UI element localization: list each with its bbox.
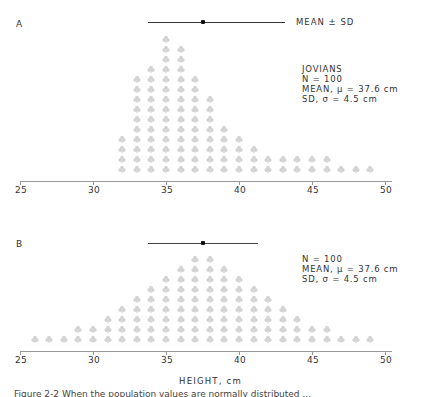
data-dot: [206, 315, 214, 323]
stats-line: SD, σ = 4.5 cm: [302, 94, 398, 104]
data-dot: [147, 105, 155, 113]
data-dot: [235, 285, 243, 293]
data-dot: [133, 335, 141, 343]
data-dot: [118, 325, 126, 333]
data-dot: [162, 45, 170, 53]
data-dot: [191, 85, 199, 93]
data-dot: [177, 65, 185, 73]
data-dot: [264, 325, 272, 333]
data-dot: [293, 165, 301, 173]
data-dot: [147, 125, 155, 133]
data-dot: [147, 305, 155, 313]
data-dot: [235, 335, 243, 343]
x-tick-label: 25: [15, 355, 27, 365]
data-dot: [191, 305, 199, 313]
data-dot: [191, 315, 199, 323]
data-dot: [337, 165, 345, 173]
data-dot: [279, 305, 287, 313]
data-dot: [235, 145, 243, 153]
data-dot: [308, 155, 316, 163]
data-dot: [162, 325, 170, 333]
data-dot: [220, 145, 228, 153]
data-dot: [191, 265, 199, 273]
data-dot: [162, 315, 170, 323]
x-tick-label: 45: [307, 185, 319, 195]
data-dot: [220, 135, 228, 143]
data-dot: [220, 295, 228, 303]
data-dot: [162, 65, 170, 73]
data-dot: [220, 155, 228, 163]
data-dot: [191, 145, 199, 153]
data-dot: [118, 315, 126, 323]
data-dot: [31, 335, 39, 343]
data-dot: [235, 295, 243, 303]
data-dot: [177, 335, 185, 343]
data-dot: [74, 335, 82, 343]
data-dot: [133, 95, 141, 103]
data-dot: [264, 165, 272, 173]
data-dot: [89, 325, 97, 333]
data-dot: [235, 325, 243, 333]
data-dot: [323, 155, 331, 163]
data-dot: [147, 295, 155, 303]
data-dot: [235, 155, 243, 163]
data-dot: [293, 315, 301, 323]
data-dot: [206, 275, 214, 283]
stats-line: JOVIANS: [302, 64, 398, 74]
data-dot: [206, 285, 214, 293]
data-dot: [147, 145, 155, 153]
data-dot: [162, 125, 170, 133]
data-dot: [220, 125, 228, 133]
data-dot: [177, 85, 185, 93]
data-dot: [177, 295, 185, 303]
data-dot: [235, 305, 243, 313]
data-dot: [235, 315, 243, 323]
data-dot: [235, 275, 243, 283]
data-dot: [191, 335, 199, 343]
data-dot: [177, 55, 185, 63]
mean-marker: [201, 20, 205, 24]
data-dot: [323, 325, 331, 333]
figure-caption: Figure 2-2 When the population values ar…: [14, 389, 414, 397]
x-tick-label: 40: [234, 185, 246, 195]
data-dot: [133, 165, 141, 173]
data-dot: [162, 135, 170, 143]
data-dot: [191, 155, 199, 163]
data-dot: [89, 335, 97, 343]
data-dot: [191, 275, 199, 283]
data-dot: [206, 165, 214, 173]
data-dot: [147, 325, 155, 333]
stats-line: MEAN, μ = 37.6 cm: [302, 264, 398, 274]
panel-letter: B: [16, 239, 23, 249]
data-dot: [162, 305, 170, 313]
data-dot: [279, 165, 287, 173]
data-dot: [162, 55, 170, 63]
x-axis: [20, 351, 392, 352]
data-dot: [250, 295, 258, 303]
data-dot: [162, 75, 170, 83]
data-dot: [293, 325, 301, 333]
data-dot: [220, 275, 228, 283]
panel-letter: A: [16, 19, 23, 29]
data-dot: [147, 95, 155, 103]
data-dot: [191, 75, 199, 83]
data-dot: [220, 315, 228, 323]
data-dot: [118, 305, 126, 313]
data-dot: [177, 325, 185, 333]
data-dot: [352, 335, 360, 343]
data-dot: [250, 285, 258, 293]
data-dot: [147, 155, 155, 163]
data-dot: [191, 255, 199, 263]
data-dot: [191, 165, 199, 173]
data-dot: [147, 165, 155, 173]
data-dot: [177, 165, 185, 173]
data-dot: [293, 155, 301, 163]
data-dot: [220, 325, 228, 333]
data-dot: [250, 305, 258, 313]
data-dot: [191, 115, 199, 123]
data-dot: [45, 335, 53, 343]
data-dot: [279, 155, 287, 163]
data-dot: [133, 145, 141, 153]
data-dot: [177, 45, 185, 53]
data-dot: [133, 125, 141, 133]
